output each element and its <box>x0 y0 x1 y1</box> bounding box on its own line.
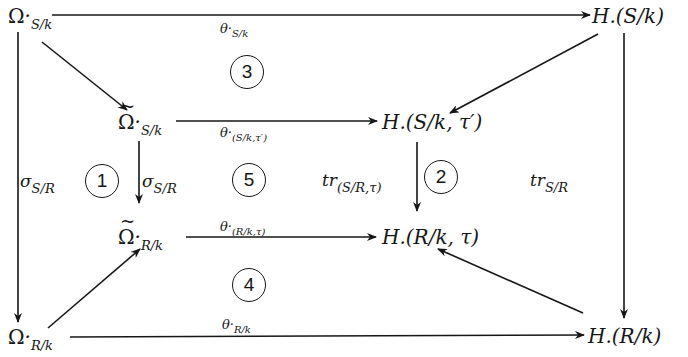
omega-tilde-symbol: Ω <box>118 227 135 247</box>
region-3-circle: 3 <box>230 55 264 89</box>
label-theta-S-k-tau-prime: θ·(S/k,τ′) <box>220 126 267 143</box>
label-sub: (S/k,τ′) <box>232 132 267 143</box>
label-tr-outer: trS/R <box>530 172 568 194</box>
node-H-R-k: H.(R/k) <box>588 326 661 346</box>
label-base: θ· <box>220 125 232 140</box>
subscript: R/k <box>141 238 163 253</box>
subscript: S/k <box>141 123 162 138</box>
label-base: θ· <box>220 219 232 234</box>
arrow-theta-R-k <box>70 335 584 337</box>
label-sub: R/k <box>234 324 251 335</box>
region-2-circle: 2 <box>424 160 458 194</box>
node-omega-tilde-R-k: Ω·R/k <box>118 227 163 252</box>
arrow-H-to-H-S-tau <box>450 34 598 113</box>
label-base: tr <box>530 170 545 190</box>
label-base: tr <box>322 170 337 190</box>
label-theta-R-k-tau: θ·(R/k,τ) <box>220 220 265 237</box>
label-sub: (R/k,τ) <box>232 226 265 237</box>
subscript: S/k <box>31 17 52 32</box>
omega-symbol: Ω <box>8 325 25 349</box>
label-sigma-outer: σS/R <box>20 173 55 195</box>
label-theta-R-k: θ·R/k <box>222 318 251 335</box>
label-base: θ· <box>222 317 234 332</box>
omega-tilde-symbol: Ω <box>118 112 135 132</box>
omega-symbol: Ω <box>8 4 25 28</box>
label-base: σ <box>142 171 154 191</box>
label-sigma-inner: σS/R <box>142 173 177 195</box>
node-omega-tilde-S-k: Ω·S/k <box>118 112 162 137</box>
node-H-S-k: H.(S/k) <box>592 6 664 26</box>
node-omega-S-k: Ω·S/k <box>8 6 52 31</box>
label-sub: S/R <box>32 181 55 196</box>
label-base: σ <box>20 171 32 191</box>
arrow-omega-to-tilde-S <box>42 42 127 110</box>
arrow-omega-to-tilde-R <box>48 249 140 328</box>
label-theta-S-k: θ·S/k <box>220 22 248 39</box>
region-5-circle: 5 <box>232 163 266 197</box>
label-base: θ· <box>220 21 232 36</box>
node-omega-R-k: Ω·R/k <box>8 327 53 352</box>
subscript: R/k <box>31 338 53 353</box>
region-1-circle: 1 <box>85 164 119 198</box>
node-H-R-k-tau: H.(R/k, τ) <box>382 227 479 247</box>
label-sub: S/R <box>154 181 177 196</box>
arrow-H-R-to-H-R-tau <box>438 249 583 313</box>
node-H-S-k-tau-prime: H.(S/k, τ′) <box>382 112 482 132</box>
region-4-circle: 4 <box>232 268 266 302</box>
label-sub: S/k <box>232 28 248 39</box>
label-sub: S/R <box>545 180 568 195</box>
label-tr-inner: tr(S/R,τ) <box>322 172 382 194</box>
label-sub: (S/R,τ) <box>337 180 382 195</box>
